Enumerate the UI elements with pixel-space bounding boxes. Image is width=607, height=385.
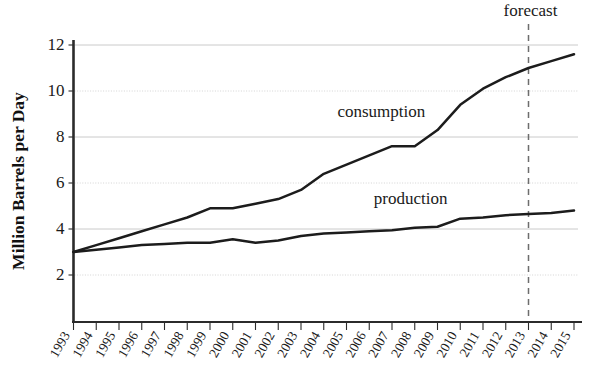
series-lines-group <box>74 54 575 252</box>
x-tick-label: 1995 <box>92 329 119 360</box>
x-tick-label: 2015 <box>547 329 574 360</box>
y-tick-label: 6 <box>56 173 65 192</box>
x-tick-label: 2001 <box>229 329 255 360</box>
x-tick-label: 1997 <box>138 329 165 360</box>
y-tick-label: 8 <box>56 127 65 146</box>
series-label-consumption: consumption <box>337 102 425 121</box>
x-tick-label: 2005 <box>320 329 347 360</box>
series-label-production: production <box>374 189 448 208</box>
y-tick-label: 12 <box>48 35 65 54</box>
y-tick-labels-group: 24681012 <box>48 35 66 284</box>
y-tick-label: 4 <box>56 219 65 238</box>
y-tick-label: 2 <box>56 265 65 284</box>
x-tick-label: 2006 <box>342 329 369 360</box>
x-tick-label: 2011 <box>456 329 482 359</box>
series-labels-group: consumptionproduction <box>337 102 448 207</box>
x-tick-label: 2012 <box>479 329 505 360</box>
x-tick-label: 2003 <box>274 329 301 360</box>
x-tick-label: 2010 <box>433 329 460 360</box>
x-tick-label: 2004 <box>297 329 324 360</box>
x-tick-label: 2007 <box>365 329 392 360</box>
forecast-label: forecast <box>504 1 558 20</box>
x-tick-label: 1998 <box>160 329 187 360</box>
line-chart: forecast 24681012 1993199419951996199719… <box>0 0 607 385</box>
x-tick-labels-group: 1993199419951996199719981999200020012002… <box>47 329 574 360</box>
x-tick-marks-group <box>74 322 575 330</box>
chart-figure: forecast 24681012 1993199419951996199719… <box>0 0 607 385</box>
axes-group <box>72 40 582 322</box>
x-tick-label: 1999 <box>183 329 210 360</box>
y-tick-label: 10 <box>48 81 65 100</box>
x-tick-label: 2008 <box>388 329 415 360</box>
forecast-marker-group: forecast <box>504 1 558 322</box>
x-tick-label: 1994 <box>69 329 96 360</box>
x-tick-label: 2014 <box>524 329 551 360</box>
series-line-production <box>74 211 575 252</box>
x-tick-label: 2013 <box>502 329 529 360</box>
x-tick-label: 2009 <box>411 329 438 360</box>
x-tick-label: 2000 <box>206 329 233 360</box>
series-line-consumption <box>74 54 575 252</box>
x-tick-label: 1996 <box>115 329 142 360</box>
x-tick-label: 2002 <box>251 329 277 360</box>
y-axis-title: Million Barrels per Day <box>8 92 28 270</box>
x-tick-label: 1993 <box>47 329 74 360</box>
